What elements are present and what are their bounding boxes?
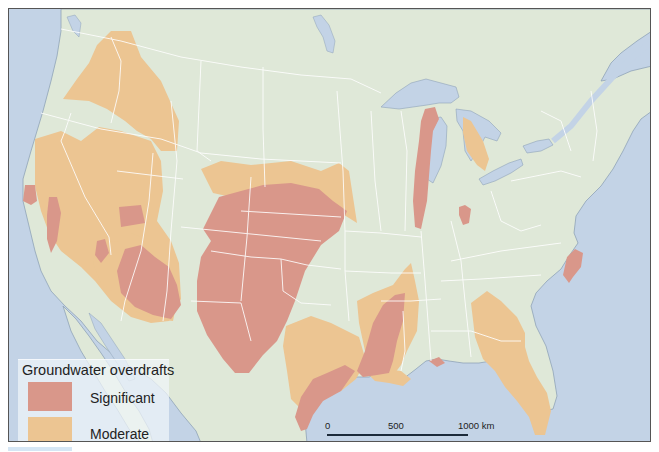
scale-tick-500: 500: [388, 420, 404, 431]
legend-label-significant: Significant: [90, 390, 155, 406]
map-frame: Groundwater overdrafts Significant Moder…: [8, 8, 651, 442]
scale-tick-0: 0: [325, 420, 330, 431]
legend-swatch-moderate: [28, 417, 72, 442]
caption-strip: [8, 447, 72, 451]
legend-title: Groundwater overdrafts: [22, 362, 174, 378]
significant-california-coast: [23, 185, 37, 205]
scale-tick-1000: 1000 km: [458, 420, 494, 431]
scale-bar-line: [327, 434, 468, 436]
legend-swatch-significant: [28, 382, 72, 411]
legend: Groundwater overdrafts Significant Moder…: [18, 359, 169, 442]
legend-label-moderate: Moderate: [90, 426, 149, 442]
scale-bar: 0 500 1000 km: [320, 420, 490, 442]
